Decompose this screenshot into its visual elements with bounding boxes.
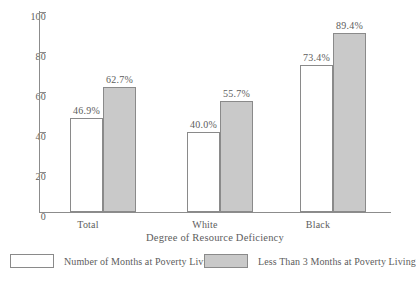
bar-black-less-than-3-months[interactable]	[333, 33, 366, 212]
x-axis-line	[39, 212, 391, 213]
bar-white-less-than-3-months[interactable]	[220, 101, 253, 212]
x-axis-category-label-white: White	[180, 219, 230, 230]
bar-slot: 62.7%	[103, 12, 136, 212]
bar-slot: 55.7%	[220, 12, 253, 212]
bar-slot: 73.4%	[300, 12, 333, 212]
plot-area: 46.9% 62.7% 40.0% 55.7% 73.4% 89.4%	[39, 12, 391, 212]
bar-total-less-than-3-months[interactable]	[103, 87, 136, 212]
bar-value-label: 89.4%	[329, 21, 370, 31]
bar-value-label: 55.7%	[216, 89, 257, 99]
bar-value-label: 73.4%	[296, 53, 337, 63]
x-axis-title: Degree of Resource Deficiency	[39, 232, 391, 244]
legend-swatch-gray-icon	[204, 254, 248, 268]
legend-entry-less-than-3-months[interactable]: Less Than 3 Months at Poverty Living	[204, 252, 416, 270]
chart-legend: Number of Months at Poverty Living Less …	[8, 252, 393, 272]
bar-black-number-of-months[interactable]	[300, 65, 333, 212]
bar-slot: 46.9%	[70, 12, 103, 212]
legend-label: Number of Months at Poverty Living	[64, 256, 217, 267]
x-axis-category-label-black: Black	[293, 219, 343, 230]
bar-value-label: 46.9%	[66, 106, 107, 116]
bar-slot: 40.0%	[187, 12, 220, 212]
bar-value-label: 62.7%	[99, 75, 140, 85]
bar-value-label: 40.0%	[183, 120, 224, 130]
legend-entry-number-of-months[interactable]: Number of Months at Poverty Living	[10, 252, 217, 270]
legend-swatch-white-icon	[10, 254, 54, 268]
bar-slot: 89.4%	[333, 12, 366, 212]
bar-total-number-of-months[interactable]	[70, 118, 103, 212]
x-axis-category-label-total: Total	[63, 219, 113, 230]
legend-label: Less Than 3 Months at Poverty Living	[258, 256, 416, 267]
bar-white-number-of-months[interactable]	[187, 132, 220, 212]
y-axis-tick-label-0: 0	[18, 212, 46, 222]
